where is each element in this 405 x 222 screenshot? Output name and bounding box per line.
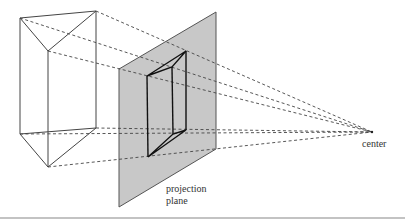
- diagram-canvas: center projection plane: [0, 0, 405, 222]
- center-of-projection-point: [371, 131, 373, 133]
- prism-object: [20, 11, 96, 167]
- center-label: center: [362, 139, 386, 149]
- projection-plane-label-line2: plane: [166, 196, 188, 206]
- projection-plane-label-line1: projection: [166, 184, 207, 194]
- projection-plane: [119, 12, 216, 207]
